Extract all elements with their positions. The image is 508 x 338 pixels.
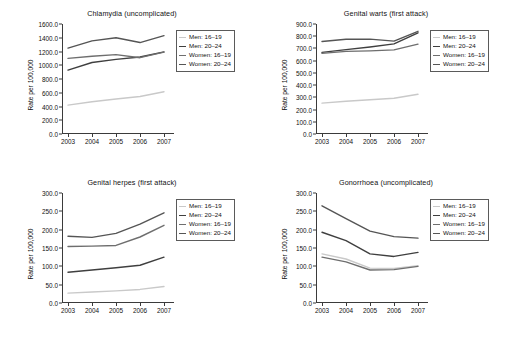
x-tick-mark	[116, 303, 117, 306]
legend-label: Women: 16–19	[189, 220, 231, 229]
series-line	[322, 232, 418, 256]
legend-label: Men: 16–19	[443, 33, 476, 42]
legend-item[interactable]: Men: 16–19	[179, 33, 231, 42]
x-tick-mark	[370, 134, 371, 137]
y-tick-mark	[313, 266, 316, 267]
series-line	[322, 94, 418, 103]
x-tick-label: 2004	[85, 307, 99, 314]
series-line	[68, 287, 164, 294]
x-tick-mark	[116, 134, 117, 137]
legend-item[interactable]: Men: 20–24	[433, 211, 485, 220]
x-tick-mark	[140, 134, 141, 137]
series-line	[322, 44, 418, 53]
legend-item[interactable]: Men: 16–19	[433, 33, 485, 42]
legend-swatch-icon	[433, 37, 440, 38]
y-tick-mark	[313, 134, 316, 135]
legend-swatch-icon	[433, 215, 440, 216]
x-tick-label: 2006	[133, 138, 147, 145]
x-tick-label: 2004	[85, 138, 99, 145]
y-tick-mark	[59, 92, 62, 93]
y-tick-mark	[313, 97, 316, 98]
legend-swatch-icon	[433, 233, 440, 234]
x-tick-label: 2005	[109, 138, 123, 145]
legend-label: Men: 20–24	[443, 42, 476, 51]
figure-grid: Chlamydia (uncomplicated) Rate per 100,0…	[0, 0, 508, 338]
legend-label: Men: 20–24	[189, 42, 222, 51]
y-tick-mark	[313, 303, 316, 304]
legend-item[interactable]: Women: 16–19	[179, 220, 231, 229]
y-tick-mark	[313, 284, 316, 285]
y-tick-mark	[313, 248, 316, 249]
y-tick-mark	[313, 229, 316, 230]
chart-title: Gonorrhoea (uncomplicated)	[254, 178, 508, 187]
y-tick-mark	[59, 193, 62, 194]
legend-item[interactable]: Men: 20–24	[179, 211, 231, 220]
series-line	[68, 225, 164, 246]
chart-panel-genital-warts: Genital warts (first attack) Rate per 10…	[254, 0, 508, 169]
x-tick-mark	[92, 303, 93, 306]
x-tick-mark	[418, 134, 419, 137]
x-tick-mark	[164, 303, 165, 306]
legend-swatch-icon	[179, 55, 186, 56]
legend-label: Men: 16–19	[189, 202, 222, 211]
y-tick-mark	[313, 121, 316, 122]
y-tick-mark	[59, 24, 62, 25]
y-tick-mark	[59, 51, 62, 52]
series-line	[68, 36, 164, 48]
legend-item[interactable]: Women: 20–24	[433, 60, 485, 69]
x-tick-label: 2006	[133, 307, 147, 314]
legend-item[interactable]: Men: 20–24	[179, 42, 231, 51]
x-tick-mark	[394, 303, 395, 306]
legend-item[interactable]: Men: 20–24	[433, 42, 485, 51]
x-tick-label: 2007	[157, 307, 171, 314]
legend-item[interactable]: Women: 20–24	[179, 60, 231, 69]
x-tick-label: 2004	[339, 138, 353, 145]
legend-label: Women: 20–24	[443, 229, 485, 238]
series-lines	[62, 193, 174, 303]
plot-area: 0.050.0100.0150.0200.0250.0300.020032004…	[316, 193, 428, 303]
legend-item[interactable]: Women: 20–24	[433, 229, 485, 238]
y-tick-mark	[313, 211, 316, 212]
legend-label: Women: 16–19	[443, 51, 485, 60]
series-line	[322, 206, 418, 238]
x-tick-mark	[370, 303, 371, 306]
y-axis-label: Rate per 100,000	[27, 59, 34, 110]
y-tick-mark	[59, 284, 62, 285]
x-tick-label: 2005	[363, 307, 377, 314]
x-tick-mark	[164, 134, 165, 137]
y-tick-mark	[59, 229, 62, 230]
legend-label: Women: 20–24	[189, 229, 231, 238]
x-tick-mark	[140, 303, 141, 306]
legend-item[interactable]: Women: 20–24	[179, 229, 231, 238]
x-tick-label: 2006	[387, 138, 401, 145]
legend-label: Men: 20–24	[443, 211, 476, 220]
legend-item[interactable]: Men: 16–19	[179, 202, 231, 211]
x-tick-label: 2007	[411, 307, 425, 314]
chart-legend: Men: 16–19Men: 20–24Women: 16–19Women: 2…	[176, 199, 235, 241]
x-tick-mark	[346, 134, 347, 137]
y-axis-label: Rate per 100,000	[281, 228, 288, 279]
legend-swatch-icon	[179, 233, 186, 234]
chart-legend: Men: 16–19Men: 20–24Women: 16–19Women: 2…	[176, 30, 235, 72]
y-tick-mark	[313, 193, 316, 194]
chart-title: Chlamydia (uncomplicated)	[0, 9, 254, 18]
legend-swatch-icon	[179, 64, 186, 65]
y-tick-mark	[313, 48, 316, 49]
y-tick-mark	[59, 266, 62, 267]
x-tick-label: 2007	[157, 138, 171, 145]
y-tick-mark	[313, 109, 316, 110]
y-tick-mark	[313, 60, 316, 61]
chart-panel-genital-herpes: Genital herpes (first attack) Rate per 1…	[0, 169, 254, 338]
x-tick-label: 2005	[363, 138, 377, 145]
y-tick-mark	[313, 36, 316, 37]
y-axis-label: Rate per 100,000	[281, 59, 288, 110]
y-tick-mark	[59, 65, 62, 66]
legend-item[interactable]: Women: 16–19	[433, 51, 485, 60]
chart-title: Genital warts (first attack)	[254, 9, 508, 18]
chart-panel-chlamydia: Chlamydia (uncomplicated) Rate per 100,0…	[0, 0, 254, 169]
y-tick-mark	[59, 79, 62, 80]
legend-item[interactable]: Men: 16–19	[433, 202, 485, 211]
legend-item[interactable]: Women: 16–19	[179, 51, 231, 60]
legend-item[interactable]: Women: 16–19	[433, 220, 485, 229]
chart-legend: Men: 16–19Men: 20–24Women: 16–19Women: 2…	[430, 30, 489, 72]
